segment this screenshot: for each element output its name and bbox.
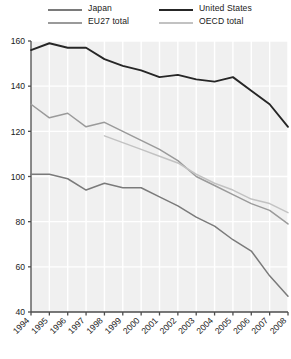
x-axis-tick-label: 1999: [103, 315, 124, 336]
x-axis-tick-label: 1996: [48, 315, 69, 336]
x-axis-tick-label: 2000: [121, 315, 142, 336]
x-axis-tick-label: 2005: [213, 315, 234, 336]
y-axis-tick-label: 60: [15, 262, 25, 272]
y-axis-tick-label: 140: [11, 81, 26, 91]
chart-container: Japan EU27 total United States OECD tota…: [0, 0, 291, 359]
y-axis-tick-label: 120: [11, 127, 26, 137]
x-axis-tick-label: 1997: [66, 315, 87, 336]
y-axis-tick-label: 160: [11, 36, 26, 46]
y-axis-tick-label: 100: [11, 172, 26, 182]
y-axis-tick-label: 80: [15, 217, 25, 227]
x-axis-tick-label: 1998: [84, 315, 105, 336]
x-axis-tick-label: 2008: [268, 315, 289, 336]
x-axis-tick-label: 1995: [29, 315, 50, 336]
chart-plot: 4060801001201401601994199519961997199819…: [0, 0, 291, 359]
x-axis-tick-label: 1994: [11, 315, 32, 336]
x-axis-tick-label: 2007: [249, 315, 270, 336]
x-axis-tick-label: 2001: [139, 315, 160, 336]
x-axis-tick-label: 2004: [194, 315, 215, 336]
x-axis-tick-label: 2002: [158, 315, 179, 336]
x-axis-tick-label: 2003: [176, 315, 197, 336]
x-axis-tick-label: 2006: [231, 315, 252, 336]
